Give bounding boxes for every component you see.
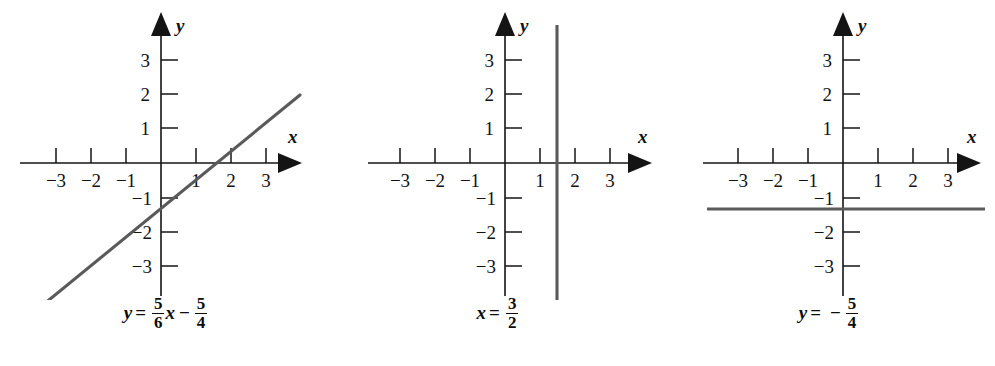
x-axis-arrowhead-icon (957, 153, 981, 173)
x-tick-label--2: −2 (81, 170, 101, 191)
caption-2: x=32 (332, 296, 664, 332)
equation-1-equals: = (135, 302, 146, 323)
y-tick-label-2: 2 (823, 84, 833, 105)
x-tick-label-3: 3 (943, 170, 953, 191)
y-tick-label--3: −3 (132, 256, 152, 277)
panel-horizontal-line: −3 −2 −1 1 2 3 3 2 1 −1 −2 −3 x y y=−54 (663, 0, 995, 366)
equation-3-constant-denominator: 4 (846, 314, 859, 332)
equation-1-lhs: y (124, 302, 132, 323)
equation-2-constant-fraction: 32 (506, 295, 519, 331)
x-tick-label-3: 3 (605, 170, 615, 191)
coordinate-plane-3: −3 −2 −1 1 2 3 3 2 1 −1 −2 −3 x y (663, 0, 995, 300)
y-tick-label-2: 2 (141, 84, 151, 105)
equation-1-variable: x (165, 302, 175, 323)
plot-area-3: −3 −2 −1 1 2 3 3 2 1 −1 −2 −3 x y (663, 0, 995, 300)
plot-area-1: −3 −2 −1 1 2 3 3 2 1 −1 −2 −3 x y (0, 0, 332, 300)
x-axis-label: x (287, 126, 298, 147)
x-tick-label-1: 1 (535, 170, 545, 191)
x-axis-label: x (966, 126, 977, 147)
y-tick-label--1: −1 (814, 188, 834, 209)
equation-3-equals: = (810, 302, 821, 323)
x-tick-label--3: −3 (390, 170, 410, 191)
y-tick-label-3: 3 (823, 50, 833, 71)
equation-3-constant-fraction: 54 (846, 295, 859, 331)
caption-3: y=−54 (663, 296, 995, 332)
x-axis-label: x (637, 126, 648, 147)
equation-2: x=32 (477, 296, 520, 332)
x-axis-arrowhead-icon (628, 153, 652, 173)
y-axis-arrowhead-icon (833, 12, 853, 36)
equation-2-constant-denominator: 2 (506, 314, 519, 332)
y-tick-label--3: −3 (814, 256, 834, 277)
y-axis-arrowhead-icon (495, 12, 515, 36)
equation-3: y=−54 (799, 296, 860, 332)
y-tick-label-3: 3 (141, 50, 151, 71)
equation-1-coefficient-denominator: 6 (152, 314, 165, 332)
y-axis-arrowhead-icon (151, 12, 171, 36)
y-tick-label--1: −1 (132, 188, 152, 209)
x-tick-label-3: 3 (261, 170, 271, 191)
x-tick-label--3: −3 (728, 170, 748, 191)
graph-figure-row: −3 −2 −1 1 2 3 3 2 1 −1 −2 −3 x y y (0, 0, 995, 366)
panel-vertical-line: −3 −2 −1 1 2 3 3 2 1 −1 −2 −3 x y x=32 (332, 0, 664, 366)
y-tick-label-1: 1 (485, 118, 495, 139)
equation-3-operator: − (830, 302, 841, 323)
equation-3-lhs: y (799, 302, 807, 323)
y-tick-label-1: 1 (823, 118, 833, 139)
coordinate-plane-2: −3 −2 −1 1 2 3 3 2 1 −1 −2 −3 x y (332, 0, 664, 300)
equation-1-constant-denominator: 4 (195, 314, 208, 332)
x-tick-label-2: 2 (570, 170, 580, 191)
equation-1-coefficient-numerator: 5 (152, 295, 165, 314)
equation-3-constant-numerator: 5 (846, 295, 859, 314)
coordinate-plane-1: −3 −2 −1 1 2 3 3 2 1 −1 −2 −3 x y (0, 0, 332, 300)
y-tick-label-3: 3 (485, 50, 495, 71)
caption-1: y=56x−54 (0, 296, 332, 332)
equation-1-operator: − (179, 302, 190, 323)
equation-2-equals: = (489, 302, 500, 323)
equation-1-constant-numerator: 5 (195, 295, 208, 314)
x-tick-label--2: −2 (425, 170, 445, 191)
plot-area-2: −3 −2 −1 1 2 3 3 2 1 −1 −2 −3 x y (332, 0, 664, 300)
equation-1: y=56x−54 (124, 296, 209, 332)
y-tick-label-1: 1 (141, 118, 151, 139)
y-tick-label--2: −2 (476, 222, 496, 243)
x-tick-label-2: 2 (226, 170, 236, 191)
equation-2-lhs: x (477, 302, 487, 323)
y-tick-label--1: −1 (476, 188, 496, 209)
equation-2-constant-numerator: 3 (506, 295, 519, 314)
equation-1-coefficient-fraction: 56 (152, 295, 165, 331)
x-tick-label-1: 1 (873, 170, 883, 191)
y-axis-label: y (518, 15, 529, 36)
y-tick-label-2: 2 (485, 84, 495, 105)
y-tick-label--3: −3 (476, 256, 496, 277)
x-tick-label--2: −2 (763, 170, 783, 191)
y-tick-label--2: −2 (814, 222, 834, 243)
y-axis-label: y (174, 15, 185, 36)
y-axis-label: y (856, 15, 867, 36)
panel-line-slope: −3 −2 −1 1 2 3 3 2 1 −1 −2 −3 x y y (0, 0, 332, 366)
x-tick-label-2: 2 (908, 170, 918, 191)
x-axis-arrowhead-icon (278, 153, 302, 173)
equation-1-constant-fraction: 54 (195, 295, 208, 331)
x-tick-label--3: −3 (46, 170, 66, 191)
